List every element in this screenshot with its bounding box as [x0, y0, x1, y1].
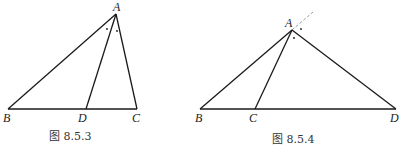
angle-mark-dot: [300, 28, 302, 30]
segment-AB: [8, 14, 116, 109]
angle-mark-dot: [293, 37, 295, 39]
figure-8-5-4: A B C D 图 8.5.4: [195, 12, 399, 146]
point-label-A: A: [284, 16, 293, 30]
point-label-C: C: [132, 111, 141, 125]
segment-AC: [255, 30, 292, 109]
figure-caption: 图 8.5.3: [49, 130, 92, 143]
angle-mark-dot: [106, 28, 108, 30]
geometry-figures: A B D C 图 8.5.3 A B C D 图 8.5.4: [0, 0, 402, 152]
segment-AD: [292, 30, 396, 109]
point-label-D: D: [77, 111, 87, 125]
point-label-D: D: [389, 111, 399, 125]
point-label-B: B: [3, 111, 11, 125]
point-label-B: B: [195, 111, 203, 125]
point-label-C: C: [249, 111, 258, 125]
segment-AC: [116, 14, 137, 109]
segment-AD: [86, 14, 116, 109]
dashed-extension-BA: [292, 12, 313, 30]
angle-mark-dot: [116, 30, 118, 32]
figure-caption: 图 8.5.4: [272, 133, 315, 146]
segment-AB: [200, 30, 292, 109]
figure-8-5-3: A B D C 图 8.5.3: [3, 0, 141, 143]
point-label-A: A: [112, 0, 121, 14]
